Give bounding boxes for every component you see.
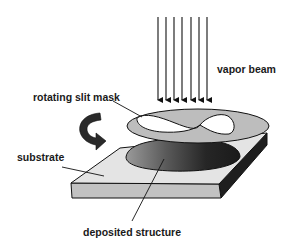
label-substrate: substrate — [17, 152, 64, 163]
vapor-beam-arrows — [158, 17, 207, 100]
rotating-slit-mask — [127, 109, 269, 143]
deposition-diagram — [0, 0, 292, 250]
substrate-front-face — [71, 183, 221, 198]
leader-rotating-slit-mask — [113, 101, 142, 117]
label-vapor-beam: vapor beam — [217, 64, 276, 75]
label-rotating-slit-mask: rotating slit mask — [33, 92, 120, 103]
rotation-arrow-icon — [80, 113, 106, 150]
deposited-structure — [126, 139, 240, 171]
label-deposited-structure: deposited structure — [83, 227, 181, 238]
